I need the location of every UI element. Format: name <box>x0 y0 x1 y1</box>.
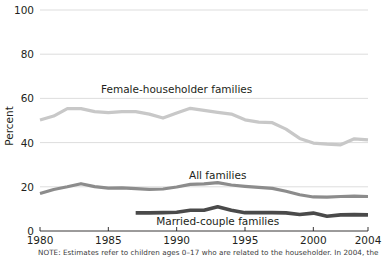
y-axis-tick-label: 60 <box>0 92 34 104</box>
x-axis-tick-label: 1980 <box>27 234 54 246</box>
chart-container: Percent 020406080100 1980198519901995200… <box>0 0 389 259</box>
x-axis-tick-label: 2000 <box>300 234 327 246</box>
y-axis-tick-label: 80 <box>0 48 34 60</box>
series-label-2: Married-couple families <box>156 215 279 227</box>
series-label-1: All families <box>189 169 246 181</box>
x-axis-tick-label: 1995 <box>232 234 259 246</box>
y-axis-tick-label: 100 <box>0 4 34 16</box>
chart-note: NOTE: Estimates refer to children ages 0… <box>38 248 379 257</box>
series-line-1 <box>40 183 368 198</box>
x-axis-tick-label: 1990 <box>163 234 190 246</box>
y-axis-tick-label: 20 <box>0 181 34 193</box>
series-lines <box>40 108 368 216</box>
x-axis-tick-label: 1985 <box>95 234 122 246</box>
series-label-0: Female-householder families <box>101 83 252 95</box>
series-line-0 <box>40 108 368 144</box>
axes <box>40 227 368 231</box>
y-axis-tick-label: 40 <box>0 137 34 149</box>
gridlines <box>40 10 368 187</box>
x-axis-tick-label: 2004 <box>355 234 382 246</box>
